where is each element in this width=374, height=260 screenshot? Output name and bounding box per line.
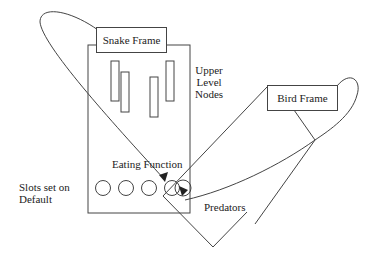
upper-level-nodes-line2: Level: [195, 76, 223, 88]
arrowhead-icon: [159, 172, 168, 182]
slots-default-line2: Default: [19, 193, 70, 205]
arrowhead-icon: [179, 186, 188, 196]
node-bar: [166, 61, 174, 101]
slot-circle: [96, 181, 111, 196]
node-bar: [121, 72, 129, 112]
slots-default-label: Slots set on Default: [19, 181, 70, 205]
upper-level-nodes-line3: Nodes: [195, 88, 223, 100]
node-bar: [150, 77, 158, 117]
node-bar: [111, 61, 119, 101]
slots-default-line1: Slots set on: [19, 181, 70, 193]
slot-circle: [142, 181, 157, 196]
slot-circle: [119, 181, 134, 196]
eating-function-label: Eating Function: [112, 158, 183, 170]
upper-level-nodes-line1: Upper: [195, 64, 223, 76]
upper-level-nodes-label: Upper Level Nodes: [195, 64, 223, 100]
bird-frame-label: Bird Frame: [267, 85, 338, 111]
snake-frame-text: Snake Frame: [103, 34, 161, 46]
predators-label: Predators: [204, 201, 246, 213]
diagram-canvas: [0, 0, 374, 260]
predator-diamond-right: [255, 110, 315, 224]
snake-frame-label: Snake Frame: [96, 27, 167, 53]
bird-frame-text: Bird Frame: [277, 92, 327, 104]
